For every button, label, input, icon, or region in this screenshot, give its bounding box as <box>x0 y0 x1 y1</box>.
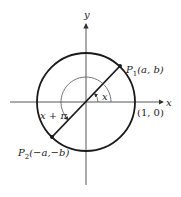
p2-coords: (−a,−b) <box>29 147 69 158</box>
x-axis-label: x <box>166 97 172 108</box>
y-axis-label: y <box>83 9 90 20</box>
intercept-label: (1, 0) <box>137 107 164 118</box>
p1-label: P1(a, b) <box>125 64 164 78</box>
p1-coords: (a, b) <box>137 64 164 75</box>
p2-label: P2(−a,−b) <box>17 147 69 161</box>
angle-x-label: x <box>102 91 108 102</box>
point-p1 <box>118 64 122 68</box>
angle-x-plus-pi-label: x + π <box>40 110 67 121</box>
point-p2 <box>50 135 54 139</box>
unit-circle-diagram: y x P1(a, b) P2(−a,−b) (1, 0) x x + π <box>0 0 181 197</box>
angle-arc-x <box>95 94 99 102</box>
